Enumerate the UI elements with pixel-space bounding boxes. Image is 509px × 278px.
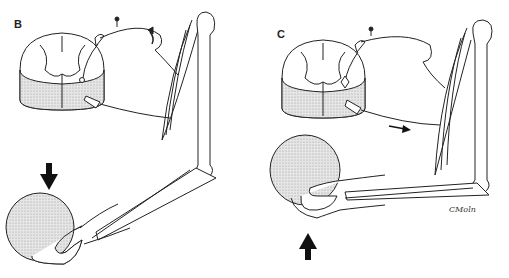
- arrow-down-icon: [40, 163, 58, 190]
- arrow-up-icon: [299, 233, 317, 260]
- stretch-reflex-diagram-b: [0, 0, 255, 278]
- ball-icon: [270, 135, 340, 205]
- panel-c: C: [255, 0, 509, 278]
- humerus-bone-icon: [471, 20, 492, 192]
- forearm-icon: [80, 168, 216, 244]
- humerus-bone-icon: [196, 12, 215, 176]
- biceps-icon: [435, 28, 471, 175]
- ball-icon: [6, 193, 74, 261]
- panel-b: B: [0, 0, 255, 278]
- biceps-icon: [162, 20, 198, 140]
- arrow-right-icon: [389, 125, 411, 133]
- stretch-reflex-diagram-c: [255, 0, 509, 278]
- artist-signature: CMoln: [449, 205, 476, 214]
